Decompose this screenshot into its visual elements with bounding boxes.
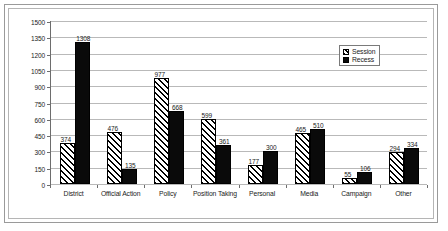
bar-value-label: 510: [313, 122, 324, 129]
bar-group-bars: 465510: [295, 21, 325, 184]
category-label: Official Action: [97, 185, 144, 219]
chart-frame: 01503004506007509001050120013501500 3741…: [4, 4, 438, 223]
category-label-text: Other: [395, 190, 412, 197]
bar-value-label: 177: [248, 158, 259, 165]
bar-value-label: 55: [344, 171, 351, 178]
category-tick: [191, 185, 192, 188]
legend-item-label: Session: [352, 48, 375, 55]
y-axis-tick-label: 1350: [31, 35, 45, 42]
category-tick: [144, 185, 145, 188]
legend-item-label: Recess: [352, 56, 374, 63]
bar-group: 977668: [145, 21, 192, 184]
bar-value-label: 599: [201, 112, 212, 119]
category-label-text: Media: [300, 190, 318, 197]
category-label-text: District: [64, 190, 84, 197]
bar-session[interactable]: 977: [154, 78, 169, 184]
category-label: Policy: [144, 185, 191, 219]
chart-frame-inner: 01503004506007509001050120013501500 3741…: [8, 8, 434, 219]
bar-session[interactable]: 294: [389, 152, 404, 184]
y-axis-tick-label: 900: [34, 84, 45, 91]
legend-item-recess[interactable]: Recess: [343, 56, 375, 63]
category-tick: [97, 185, 98, 188]
bar-session[interactable]: 374: [60, 143, 75, 184]
bar-recess[interactable]: 300: [263, 151, 278, 184]
bar-value-label: 977: [154, 71, 165, 78]
y-axis-tick-label: 750: [34, 100, 45, 107]
chart-legend: SessionRecess: [339, 45, 380, 66]
bar-group-bars: 599361: [201, 21, 231, 184]
bar-session[interactable]: 599: [201, 119, 216, 184]
category-label: District: [50, 185, 97, 219]
category-label-text: Campaign: [341, 190, 371, 197]
bar-value-label: 668: [172, 104, 183, 111]
bar-recess[interactable]: 1308: [75, 42, 90, 184]
legend-item-session[interactable]: Session: [343, 48, 375, 55]
hatch-swatch-icon: [343, 49, 349, 55]
y-axis-tick-label: 1500: [31, 19, 45, 26]
category-label-text: Official Action: [101, 190, 141, 197]
bar-value-label: 361: [219, 138, 230, 145]
bar-recess[interactable]: 361: [216, 145, 231, 184]
bar-group: 177300: [239, 21, 286, 184]
bar-value-label: 300: [266, 144, 277, 151]
bar-session[interactable]: 476: [107, 132, 122, 184]
category-tick: [286, 185, 287, 188]
category-tick: [380, 185, 381, 188]
bar-value-label: 465: [295, 126, 306, 133]
category-tick: [50, 185, 51, 188]
bar-value-label: 374: [60, 136, 71, 143]
category-label: Campaign: [333, 185, 380, 219]
bar-value-label: 334: [407, 141, 418, 148]
bar-group: 3741308: [51, 21, 98, 184]
y-axis-tick-label: 300: [34, 149, 45, 156]
bar-group-bars: 476135: [107, 21, 137, 184]
y-axis-tick-label: 600: [34, 116, 45, 123]
y-axis-tick-label: 0: [41, 182, 45, 189]
bar-recess[interactable]: 135: [122, 169, 137, 184]
category-label: Personal: [239, 185, 286, 219]
y-axis-tick-label: 150: [34, 165, 45, 172]
category-tick: [333, 185, 334, 188]
category-label-text: Personal: [249, 190, 275, 197]
bar-group-bars: 177300: [248, 21, 278, 184]
bar-value-label: 106: [360, 165, 371, 172]
y-axis-tick-label: 1050: [31, 67, 45, 74]
category-tick: [427, 185, 428, 188]
category-label: Media: [286, 185, 333, 219]
bar-value-label: 135: [125, 162, 136, 169]
y-axis-tick-label: 1200: [31, 51, 45, 58]
bar-session[interactable]: 55: [342, 178, 357, 184]
bar-session[interactable]: 465: [295, 133, 310, 184]
category-label: Position Taking: [191, 185, 238, 219]
bar-recess[interactable]: 510: [310, 129, 325, 184]
bar-group: 294334: [380, 21, 427, 184]
y-axis-tick-label: 450: [34, 133, 45, 140]
bar-group: 465510: [286, 21, 333, 184]
bar-session[interactable]: 177: [248, 165, 263, 184]
bar-value-label: 1308: [76, 35, 90, 42]
bar-value-label: 476: [107, 125, 118, 132]
bar-group-bars: 3741308: [60, 21, 90, 184]
solid-swatch-icon: [343, 57, 349, 63]
bar-group: 599361: [192, 21, 239, 184]
bar-group-bars: 294334: [389, 21, 419, 184]
bar-group-bars: 977668: [154, 21, 184, 184]
bar-recess[interactable]: 334: [404, 148, 419, 184]
category-label: Other: [380, 185, 427, 219]
category-label-text: Position Taking: [193, 190, 237, 197]
bar-group: 476135: [98, 21, 145, 184]
bar-value-label: 294: [389, 145, 400, 152]
category-axis: DistrictOfficial ActionPolicyPosition Ta…: [50, 185, 427, 219]
category-tick: [239, 185, 240, 188]
bar-recess[interactable]: 668: [169, 111, 184, 184]
bar-recess[interactable]: 106: [357, 172, 372, 184]
category-label-text: Policy: [159, 190, 177, 197]
